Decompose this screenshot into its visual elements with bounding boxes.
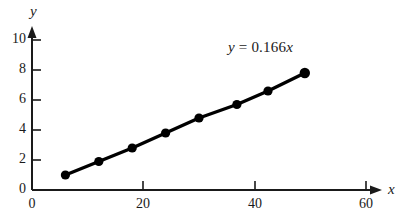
- data-point: [161, 128, 170, 137]
- x-axis-arrowhead: [370, 186, 382, 195]
- y-axis-ticks: [32, 40, 41, 160]
- y-tick-label-4: 4: [0, 122, 26, 136]
- x-tick-label-20: 20: [128, 197, 158, 211]
- equation-variable: x: [286, 39, 293, 55]
- x-axis-label: x: [388, 181, 395, 198]
- equation-lhs: y: [228, 39, 235, 55]
- data-point: [300, 68, 310, 78]
- data-point: [128, 143, 137, 152]
- y-tick-label-6: 6: [0, 92, 26, 106]
- equation-equals: =: [235, 39, 252, 55]
- x-tick-label-0: 0: [22, 197, 42, 211]
- y-tick-label-2: 2: [0, 152, 26, 166]
- chart-figure: 10 8 6 4 2 0 0 20 40 60 y x y = 0.166x: [0, 0, 404, 221]
- data-point: [94, 157, 103, 166]
- y-axis-label: y: [30, 3, 37, 20]
- y-axis-arrowhead: [28, 26, 37, 38]
- data-point: [61, 170, 70, 179]
- fit-equation-annotation: y = 0.166x: [228, 39, 293, 56]
- data-point: [232, 100, 241, 109]
- y-tick-label-8: 8: [0, 62, 26, 76]
- y-tick-label-10: 10: [0, 32, 26, 46]
- equation-coefficient: 0.166: [251, 39, 286, 55]
- y-tick-label-0: 0: [0, 182, 26, 196]
- x-tick-label-40: 40: [240, 197, 270, 211]
- data-point: [194, 113, 203, 122]
- data-point: [263, 86, 272, 95]
- scatter-plot-canvas: [0, 0, 404, 221]
- x-axis-ticks: [143, 181, 366, 190]
- x-tick-label-60: 60: [351, 197, 381, 211]
